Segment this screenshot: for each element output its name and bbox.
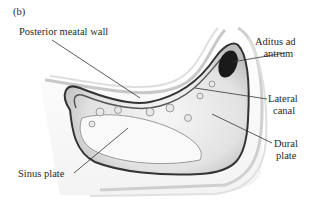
label-posterior-meatal-wall: Posterior meatal wall bbox=[19, 26, 108, 38]
label-aditus-line2: antrum bbox=[255, 48, 296, 60]
label-sinus-plate: Sinus plate bbox=[18, 168, 64, 180]
label-dural-line2: plate bbox=[274, 150, 298, 162]
panel-label: (b) bbox=[13, 6, 25, 18]
label-dural-line1: Dural bbox=[274, 138, 298, 150]
label-lateral-canal: Lateral canal bbox=[268, 93, 298, 117]
label-dural-plate: Dural plate bbox=[274, 138, 298, 162]
label-aditus-ad-antrum: Aditus ad antrum bbox=[255, 36, 296, 60]
label-lateral-line2: canal bbox=[268, 105, 298, 117]
label-lateral-line1: Lateral bbox=[268, 93, 298, 105]
label-aditus-line1: Aditus ad bbox=[255, 36, 296, 48]
